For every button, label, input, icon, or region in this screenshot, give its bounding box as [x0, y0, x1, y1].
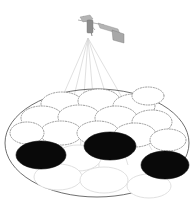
beam-cell-c19[interactable] [150, 129, 186, 151]
beam-cell-c12-active[interactable] [84, 132, 136, 160]
cell-grid [10, 87, 189, 198]
satellite-dish [112, 30, 124, 43]
beam-cell-c16[interactable] [80, 167, 128, 193]
diagram-canvas: Satellite [0, 0, 196, 210]
beam-cell-c11-active[interactable] [16, 141, 66, 169]
satellite-coverage-figure: Satellite multi-beam cellular coverage f… [0, 0, 196, 210]
satellite-body [87, 20, 93, 33]
beam-cell-c13-active[interactable] [141, 151, 189, 179]
beam-cell-c18[interactable] [10, 122, 44, 144]
beam-cell-c20[interactable] [132, 87, 164, 105]
satellite[interactable]: Satellite [78, 15, 124, 43]
